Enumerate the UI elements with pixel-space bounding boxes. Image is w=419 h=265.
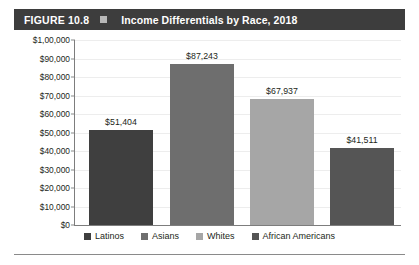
title-square-icon [100, 16, 107, 23]
figure-container: FIGURE 10.8 Income Differentials by Race… [0, 0, 419, 265]
figure-number-label: FIGURE 10.8 [24, 14, 89, 26]
y-axis-tick-label: $40,000 [4, 146, 70, 156]
legend-item[interactable]: Asians [141, 231, 179, 241]
legend-swatch-icon [252, 233, 259, 240]
gridline [75, 40, 401, 41]
legend-item-label: African Americans [263, 231, 336, 241]
legend-item[interactable]: Latinos [84, 231, 124, 241]
gridline [75, 77, 401, 78]
y-axis-line [74, 40, 75, 226]
y-axis-tick-label: $70,000 [4, 91, 70, 101]
y-axis-tick-label: $1,00,000 [4, 35, 70, 45]
legend-item[interactable]: Whites [196, 231, 235, 241]
bar-value-label: $67,937 [250, 86, 314, 96]
legend-swatch-icon [196, 233, 203, 240]
y-axis-tick-label: $10,000 [4, 202, 70, 212]
legend-item-label: Latinos [95, 231, 124, 241]
y-axis-tick-label: $20,000 [4, 183, 70, 193]
y-axis-tick-label: $50,000 [4, 128, 70, 138]
page-title: Income Differentials by Race, 2018 [121, 14, 297, 26]
bottom-divider [14, 254, 405, 255]
gridline [75, 96, 401, 97]
chart-legend: LatinosAsiansWhitesAfrican Americans [0, 231, 419, 241]
x-axis-line [74, 225, 401, 226]
bar-value-label: $51,404 [89, 117, 153, 127]
y-axis-tick-label: $30,000 [4, 165, 70, 175]
legend-swatch-icon [84, 233, 91, 240]
y-axis-tick-label: $0 [4, 220, 70, 230]
bar-value-label: $87,243 [170, 51, 234, 61]
gridline [75, 114, 401, 115]
bar-value-label: $41,511 [330, 135, 394, 145]
y-axis-tick-label: $80,000 [4, 72, 70, 82]
y-axis-tick-label: $90,000 [4, 54, 70, 64]
figure-title-bar: FIGURE 10.8 Income Differentials by Race… [14, 9, 405, 30]
y-axis-tick-label: $60,000 [4, 109, 70, 119]
bar-whites [250, 99, 314, 225]
legend-item-label: Whites [207, 231, 235, 241]
gridline [75, 59, 401, 60]
bar-asians [170, 64, 234, 225]
plot-area: $1,00,000$90,000$80,000$70,000$60,000$50… [0, 38, 419, 230]
legend-item[interactable]: African Americans [252, 231, 336, 241]
bar-african-americans [330, 148, 394, 225]
legend-item-label: Asians [152, 231, 179, 241]
legend-swatch-icon [141, 233, 148, 240]
bar-latinos [89, 130, 153, 225]
